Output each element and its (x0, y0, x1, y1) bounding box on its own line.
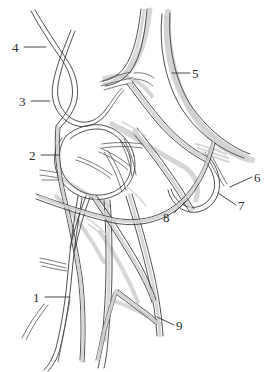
plexus-drawing (0, 0, 273, 372)
plexus-center-spokes (99, 143, 142, 193)
trunk-upper-left-4 (31, 10, 78, 128)
shading-layer (56, 10, 252, 324)
anatomical-figure: 123456789 (0, 0, 273, 372)
fibers-internal (76, 139, 136, 178)
leader-line-7 (218, 193, 236, 205)
branch-center-lower-right (92, 195, 156, 302)
loop-medial-2 (55, 125, 136, 200)
cut-stubs-lower-left (22, 258, 70, 362)
leader-line-6 (230, 177, 252, 187)
